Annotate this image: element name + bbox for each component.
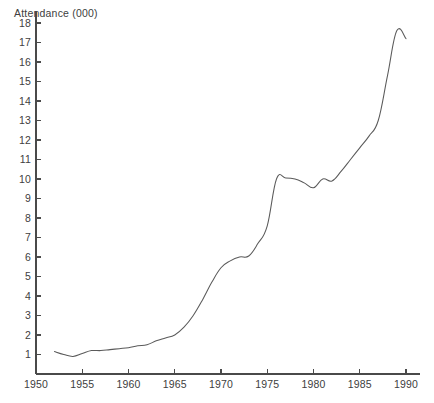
y-axis-tick-label: 4 xyxy=(25,290,31,302)
x-axis-tick-label: 1965 xyxy=(163,378,187,390)
y-axis-tick-label: 8 xyxy=(25,212,31,224)
y-axis-tick-label: 7 xyxy=(25,231,31,243)
y-axis-tick-label: 3 xyxy=(25,309,31,321)
y-axis-tick-label: 16 xyxy=(19,56,31,68)
x-axis-tick-label: 1970 xyxy=(209,378,233,390)
x-axis-tick-label: 1985 xyxy=(348,378,372,390)
y-axis-tick-label: 18 xyxy=(19,17,31,29)
x-axis-tick-label: 1980 xyxy=(301,378,325,390)
y-axis-tick-label: 2 xyxy=(25,329,31,341)
y-axis-tick-label: 17 xyxy=(19,36,31,48)
data-series-line xyxy=(55,29,407,357)
chart-plot-area: 123456789101112131415161718 195019551960… xyxy=(0,0,434,403)
x-axis-tick-label: 1960 xyxy=(116,378,140,390)
x-axis-tick-label: 1955 xyxy=(70,378,94,390)
x-axis-tick-label: 1990 xyxy=(394,378,418,390)
data-series-group xyxy=(55,29,407,357)
y-axis-tick-label: 15 xyxy=(19,75,31,87)
y-axis-tick-label: 11 xyxy=(20,153,31,165)
y-axis-tick-label: 12 xyxy=(19,134,31,146)
y-axis-tick-label: 5 xyxy=(25,270,31,282)
y-axis-tick-label: 6 xyxy=(25,251,31,263)
x-axis-tick-label: 1950 xyxy=(24,378,48,390)
attendance-line-chart: Attendance (000) 12345678910111213141516… xyxy=(0,0,434,403)
y-axis: 123456789101112131415161718 xyxy=(19,11,41,374)
y-axis-tick-label: 1 xyxy=(25,348,31,360)
x-axis-tick-label: 1975 xyxy=(255,378,279,390)
y-axis-tick-label: 9 xyxy=(25,192,31,204)
x-axis: 195019551960196519701975198019851990 xyxy=(24,369,420,390)
y-axis-tick-label: 10 xyxy=(19,173,31,185)
y-axis-tick-label: 13 xyxy=(19,114,31,126)
y-axis-tick-label: 14 xyxy=(19,95,31,107)
